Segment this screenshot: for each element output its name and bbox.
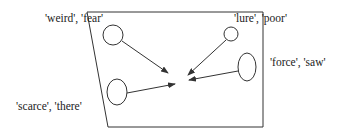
vowel-space-diagram: 'weird', 'fear' 'lure', 'poor' 'force', … (0, 0, 345, 133)
arrow-bottom-left (127, 84, 175, 93)
bottom-left-ellipse (107, 79, 127, 105)
arrow-top-left (122, 41, 168, 73)
arrow-right (189, 71, 238, 80)
arrow-top-right (188, 40, 226, 75)
label-top-right: 'lure', 'poor' (234, 13, 287, 25)
top-right-circle (224, 27, 238, 41)
label-right: 'force', 'saw' (270, 57, 326, 69)
top-left-circle (103, 25, 123, 45)
right-ellipse (238, 53, 256, 81)
label-bottom-left: 'scarce', 'there' (16, 101, 82, 113)
label-top-left: 'weird', 'fear' (45, 13, 103, 25)
